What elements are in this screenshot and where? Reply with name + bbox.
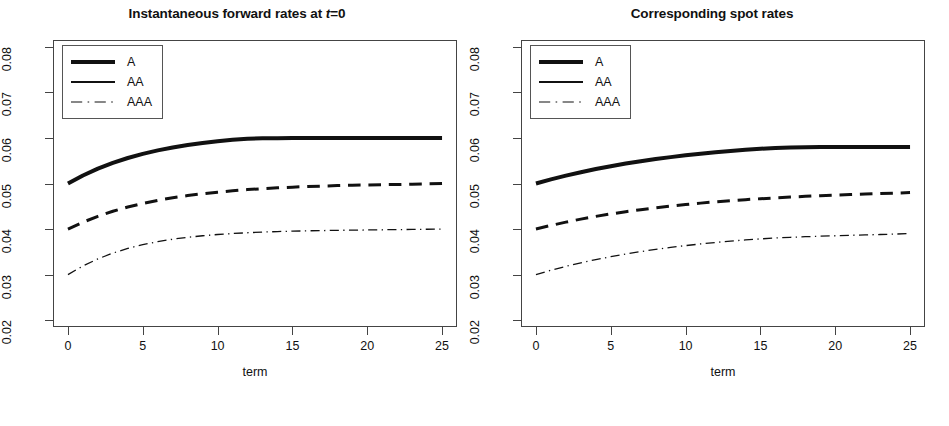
x-axis-tick	[910, 327, 911, 335]
x-axis-label: 0	[64, 339, 71, 353]
panel-title-suffix: =0	[330, 6, 345, 21]
y-axis-tick	[45, 320, 53, 321]
legend-item-A: A	[539, 52, 620, 72]
series-line-AA	[536, 193, 910, 229]
y-axis-tick	[513, 320, 521, 321]
legend-item-AA: AA	[539, 72, 620, 92]
x-axis-label: 20	[360, 339, 374, 353]
legend-item-AAA: AAA	[71, 92, 152, 112]
panel-forward-rates: Instantaneous forward rates at t=0 0.020…	[0, 0, 474, 426]
x-axis-label: 20	[828, 339, 842, 353]
legend-label-A: A	[127, 56, 135, 69]
x-axis-title: term	[521, 365, 925, 379]
y-axis-label-text: 0.07	[0, 92, 14, 116]
series-line-A	[536, 147, 910, 183]
legend-item-A: A	[71, 52, 152, 72]
panel-spot-rates: Corresponding spot rates 0.020.030.040.0…	[475, 0, 949, 426]
y-axis-label-text: 0.06	[468, 138, 482, 162]
y-axis-tick	[45, 229, 53, 230]
x-axis-tick	[611, 327, 612, 335]
legend-label-AA: AA	[595, 76, 612, 89]
plot-area-forward-rates: 0.020.030.040.050.060.070.08 0510152025 …	[53, 40, 457, 327]
panel-title-prefix: Instantaneous forward rates at	[129, 6, 326, 21]
legend-key-AAA-icon	[539, 96, 583, 108]
y-axis-label-text: 0.05	[468, 184, 482, 208]
legend-item-AA: AA	[71, 72, 152, 92]
x-axis-tick	[686, 327, 687, 335]
x-axis-label: 10	[211, 339, 225, 353]
y-axis-label-text: 0.03	[468, 275, 482, 299]
x-axis-tick	[760, 327, 761, 335]
legend-label-A: A	[595, 56, 603, 69]
legend-key-A-icon	[71, 56, 115, 68]
x-axis-label: 10	[679, 339, 693, 353]
plot-area-spot-rates: 0.020.030.040.050.060.070.08 0510152025 …	[521, 40, 925, 327]
x-axis-tick	[536, 327, 537, 335]
series-line-A	[68, 138, 442, 184]
x-axis-label: 5	[607, 339, 614, 353]
series-line-AAA	[68, 229, 442, 275]
x-axis-tick	[218, 327, 219, 335]
x-axis-label: 0	[532, 339, 539, 353]
y-axis-label-text: 0.07	[468, 92, 482, 116]
legend-key-A-icon	[539, 56, 583, 68]
y-axis-tick	[45, 47, 53, 48]
y-axis-label-text: 0.05	[0, 184, 14, 208]
y-axis-label-text: 0.08	[468, 47, 482, 71]
x-axis-tick	[143, 327, 144, 335]
y-axis-label-text: 0.04	[0, 229, 14, 253]
y-axis-tick	[45, 92, 53, 93]
y-axis-tick	[513, 184, 521, 185]
y-axis-label-text: 0.06	[0, 138, 14, 162]
legend-item-AAA: AAA	[539, 92, 620, 112]
y-axis-label-text: 0.04	[468, 229, 482, 253]
y-axis-tick	[513, 138, 521, 139]
legend-key-AA-icon	[539, 76, 583, 88]
legend-key-AA-icon	[71, 76, 115, 88]
x-axis-tick	[835, 327, 836, 335]
x-axis-label: 5	[139, 339, 146, 353]
figure-two-panel-rate-curves: Instantaneous forward rates at t=0 0.020…	[0, 0, 949, 426]
y-axis-tick	[513, 92, 521, 93]
y-axis-tick	[45, 184, 53, 185]
y-axis-tick	[513, 229, 521, 230]
x-axis-tick	[442, 327, 443, 335]
x-axis-label: 15	[285, 339, 299, 353]
legend-label-AAA: AAA	[595, 96, 620, 109]
panel-title-prefix: Corresponding spot rates	[631, 6, 794, 21]
y-axis-tick	[45, 138, 53, 139]
x-axis-tick	[68, 327, 69, 335]
y-axis-label-text: 0.02	[0, 320, 14, 344]
x-axis-title: term	[53, 365, 457, 379]
y-axis-label-text: 0.03	[0, 275, 14, 299]
panel-title-spot-rates: Corresponding spot rates	[475, 6, 949, 21]
y-axis-tick	[45, 275, 53, 276]
y-axis-tick	[513, 47, 521, 48]
x-axis-tick	[292, 327, 293, 335]
y-axis-tick	[513, 275, 521, 276]
series-line-AA	[68, 184, 442, 230]
legend-spot-rates: AAAAAA	[530, 45, 631, 119]
legend-label-AAA: AAA	[127, 96, 152, 109]
y-axis-label-text: 0.08	[0, 47, 14, 71]
panel-title-forward-rates: Instantaneous forward rates at t=0	[0, 6, 474, 21]
legend-forward-rates: AAAAAA	[62, 45, 163, 119]
legend-key-AAA-icon	[71, 96, 115, 108]
x-axis-tick	[367, 327, 368, 335]
x-axis-label: 25	[903, 339, 917, 353]
x-axis-label: 25	[435, 339, 449, 353]
y-axis-label-text: 0.02	[468, 320, 482, 344]
series-line-AAA	[536, 234, 910, 275]
legend-label-AA: AA	[127, 76, 144, 89]
x-axis-label: 15	[753, 339, 767, 353]
